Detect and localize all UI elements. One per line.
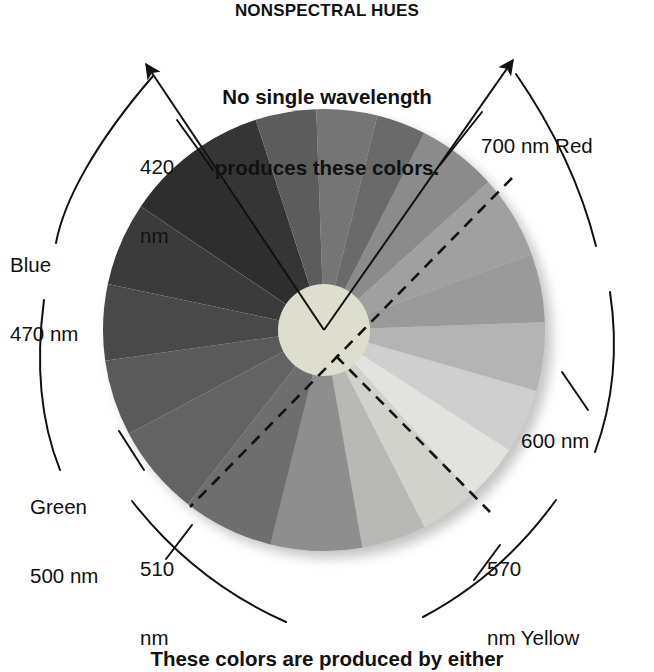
- page-title: NONSPECTRAL HUES: [235, 2, 419, 20]
- label-510nm: 510 nm: [140, 512, 174, 672]
- label-570nm-yellow: 570 nm Yellow: [487, 512, 579, 672]
- label-700nm-red: 700 nm Red: [481, 135, 593, 158]
- top-callout: No single wavelength produces these colo…: [215, 38, 439, 227]
- label-green-500nm-line1: Green: [30, 496, 98, 519]
- label-blue-470nm-line1: Blue: [10, 254, 78, 277]
- label-green-500nm: Green 500 nm: [30, 450, 98, 634]
- bottom-callout: These colors are produced by either a si…: [150, 600, 503, 672]
- label-510nm-line1: 510: [140, 558, 174, 581]
- label-510nm-line2: nm: [140, 627, 174, 650]
- bottom-callout-line1: These colors are produced by either: [150, 647, 503, 671]
- label-blue-470nm-line2: 470 nm: [10, 323, 78, 346]
- leader-600nm: [595, 292, 614, 452]
- tick-600nm: [562, 372, 588, 410]
- nonspectral-hues-figure: NONSPECTRAL HUES No single wavelength pr…: [0, 0, 654, 672]
- label-600nm: 600 nm: [521, 430, 589, 453]
- label-570nm-line1: 570: [487, 558, 579, 581]
- label-420nm: 420 nm: [140, 110, 174, 294]
- label-green-500nm-line2: 500 nm: [30, 565, 98, 588]
- label-570nm-line2: nm Yellow: [487, 627, 579, 650]
- label-blue-470nm: Blue 470 nm: [10, 208, 78, 392]
- label-420nm-line1: 420: [140, 156, 174, 179]
- top-callout-line2: produces these colors.: [215, 156, 439, 180]
- leader-700nm: [516, 74, 596, 246]
- label-420nm-line2: nm: [140, 225, 174, 248]
- top-callout-line1: No single wavelength: [215, 85, 439, 109]
